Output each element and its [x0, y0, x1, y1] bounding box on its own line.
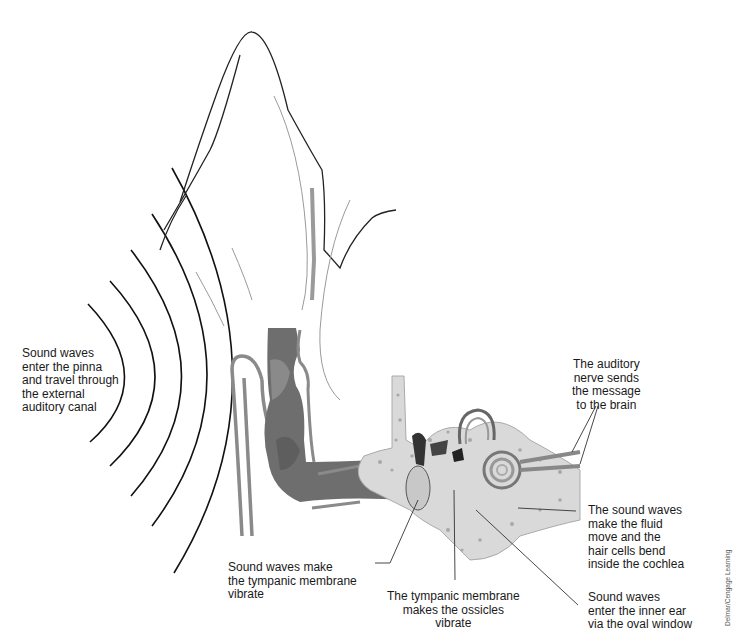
label-tympanic-membrane: Sound waves make the tympanic membrane v… — [228, 561, 357, 602]
image-credit: Delmar/Cengage Learning — [724, 550, 731, 626]
label-pinna: Sound waves enter the pinna and travel t… — [22, 347, 119, 415]
label-cochlea: The sound waves make the fluid move and … — [588, 504, 684, 572]
label-ossicles: The tympanic membrane makes the ossicles… — [387, 590, 520, 631]
pinna-outline — [160, 32, 396, 268]
label-auditory-nerve: The auditory nerve sends the message to … — [572, 358, 641, 412]
helix-rim — [312, 188, 314, 300]
label-oval-window: Sound waves enter the inner ear via the … — [588, 591, 692, 632]
